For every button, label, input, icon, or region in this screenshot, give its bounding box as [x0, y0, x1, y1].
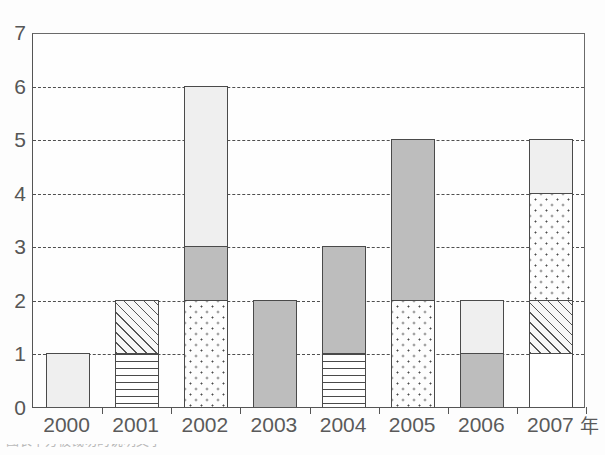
y-tick-label-4: 4: [2, 183, 26, 204]
bar-segment-2007-blank[interactable]: [530, 353, 572, 407]
x-tick-label-2004: 2004: [313, 413, 373, 437]
bar-segment-2002-lightgray[interactable]: [185, 86, 227, 247]
bar-segment-2002-midgray[interactable]: [185, 246, 227, 300]
bar-2005[interactable]: [391, 139, 435, 407]
y-tick-label-7: 7: [2, 22, 26, 43]
bar-segment-2006-midgray[interactable]: [461, 353, 503, 407]
bar-2003[interactable]: [253, 300, 297, 407]
bar-2001[interactable]: [115, 300, 159, 407]
bar-2000[interactable]: [46, 353, 90, 407]
bar-segment-2003-midgray[interactable]: [254, 300, 296, 407]
bar-segment-2000-lightgray[interactable]: [47, 353, 89, 407]
bar-segment-2001-diag[interactable]: [116, 300, 158, 354]
bar-segment-2007-diag[interactable]: [530, 300, 572, 354]
bar-2006[interactable]: [460, 300, 504, 407]
x-axis-unit-label: 年: [580, 414, 599, 438]
bar-2002[interactable]: [184, 86, 228, 407]
x-tick-label-2000: 2000: [37, 413, 97, 437]
bar-segment-2005-dots[interactable]: [392, 300, 434, 407]
bar-2004[interactable]: [322, 246, 366, 407]
gridline-5: [33, 140, 584, 141]
y-tick-label-3: 3: [2, 236, 26, 257]
bar-segment-2001-hlines[interactable]: [116, 353, 158, 407]
bar-segment-2005-midgray[interactable]: [392, 139, 434, 300]
bar-segment-2004-midgray[interactable]: [323, 246, 365, 353]
y-tick-label-2: 2: [2, 290, 26, 311]
y-tick-label-5: 5: [2, 129, 26, 150]
bar-segment-2004-hlines[interactable]: [323, 353, 365, 407]
cropped-caption-text: 图表下方被裁切的说明文字: [6, 444, 162, 448]
bar-2007[interactable]: [529, 139, 573, 407]
plot-area: [32, 33, 585, 408]
bar-segment-2007-lightgray[interactable]: [530, 139, 572, 193]
chart-container: 01234567 2000200120022003200420052006200…: [0, 0, 605, 455]
gridline-6: [33, 87, 584, 88]
x-tick-label-2002: 2002: [175, 413, 235, 437]
y-tick-label-6: 6: [2, 76, 26, 97]
x-tick-label-2005: 2005: [382, 413, 442, 437]
y-axis-tick-labels: 01234567: [0, 0, 26, 455]
x-tick-label-2003: 2003: [244, 413, 304, 437]
x-tick-label-2006: 2006: [451, 413, 511, 437]
y-tick-label-1: 1: [2, 343, 26, 364]
x-tick-label-2007: 2007: [520, 413, 580, 437]
gridline-3: [33, 247, 584, 248]
cropped-caption-strip: 图表下方被裁切的说明文字: [0, 444, 605, 455]
gridline-4: [33, 194, 584, 195]
x-tick-label-2001: 2001: [106, 413, 166, 437]
bar-segment-2006-lightgray[interactable]: [461, 300, 503, 354]
x-axis-tick-labels: 20002001200220032004200520062007年: [0, 413, 605, 443]
bar-segment-2007-dots[interactable]: [530, 193, 572, 300]
bar-segment-2002-dots[interactable]: [185, 300, 227, 407]
